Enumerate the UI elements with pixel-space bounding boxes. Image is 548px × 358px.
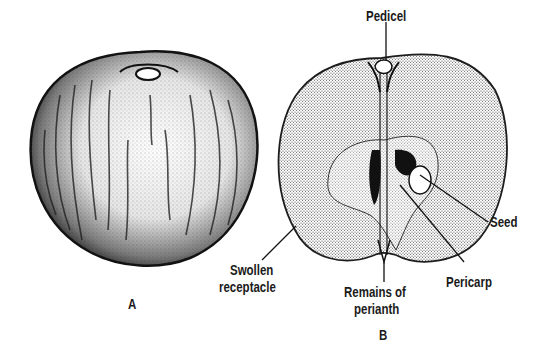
apple-diagram: [0, 0, 548, 358]
receptacle-leader: [262, 226, 296, 260]
panel-label-a: A: [128, 296, 136, 312]
apple-cross-section: [279, 54, 507, 262]
label-seed: Seed: [490, 214, 517, 230]
panel-label-b: B: [379, 327, 387, 343]
label-pericarp: Pericarp: [446, 274, 492, 290]
whole-apple: [31, 51, 258, 265]
label-pedicel: Pedicel: [366, 8, 406, 24]
label-remains-of-perianth-line2: perianth: [354, 301, 399, 317]
label-swollen-receptacle-line2: receptacle: [219, 279, 276, 295]
label-remains-of-perianth-line1: Remains of: [344, 284, 406, 300]
label-swollen-receptacle-line1: Swollen: [230, 262, 273, 278]
